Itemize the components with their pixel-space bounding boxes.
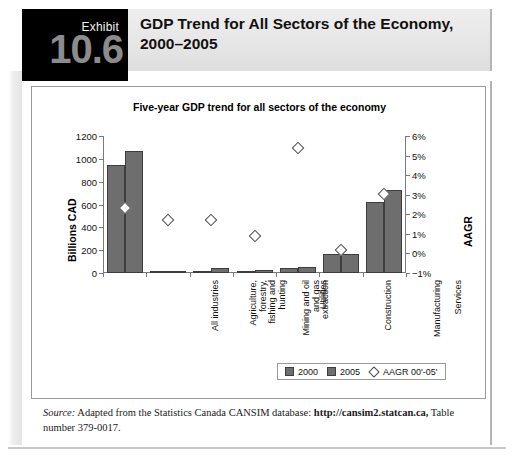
x-axis-tick (276, 273, 277, 277)
y-axis-tick-label: 1000 (76, 153, 97, 164)
y-axis-tick-label: 0 (92, 268, 97, 279)
aagr-marker (205, 214, 218, 227)
aagr-marker (162, 214, 175, 227)
x-axis-tick (406, 273, 407, 277)
bar-2000 (323, 254, 341, 273)
bar-2000 (237, 271, 255, 273)
legend-item: 2005 (327, 367, 360, 377)
bar-2000 (107, 165, 125, 273)
bar-2000 (193, 271, 211, 273)
x-axis-tick (103, 273, 104, 277)
bar-2000 (366, 202, 384, 273)
y-axis-tick (99, 205, 103, 206)
bar-2000 (280, 268, 298, 273)
legend-label: AAGR 00'-05' (383, 367, 437, 377)
y-axis-tick-label: 200 (81, 245, 97, 256)
x-axis-category-label: Services (454, 280, 464, 315)
legend-item: AAGR 00'-05' (369, 367, 437, 377)
bar-2005 (211, 268, 229, 273)
y2-axis-tick-label: 0% (412, 248, 426, 259)
y2-axis-tick-label: 4% (412, 170, 426, 181)
chart-legend: 20002005AAGR 00'-05' (277, 363, 446, 380)
source-text-before: Adapted from the Statistics Canada CANSI… (75, 407, 314, 418)
y-axis-tick-label: 800 (81, 176, 97, 187)
y-axis-line (103, 136, 104, 273)
chart-title: Five-year GDP trend for all sectors of t… (32, 101, 487, 113)
y2-axis-tick (406, 175, 410, 176)
y-axis-tick-label: 600 (81, 199, 97, 210)
y2-axis-tick-label: 3% (412, 189, 426, 200)
y-axis-title: Billions CAD (66, 198, 78, 262)
aagr-marker (248, 229, 261, 242)
y-axis-tick-label: 1200 (76, 131, 97, 142)
bar-2005 (341, 254, 359, 273)
legend-diamond-icon (368, 366, 379, 377)
legend-square-icon (285, 367, 294, 376)
page-title: GDP Trend for All Sectors of the Economy… (140, 14, 480, 55)
y2-axis-tick-label: −1% (412, 268, 431, 279)
y2-axis-tick (406, 136, 410, 137)
exhibit-page: Exhibit 10.6 GDP Trend for All Sectors o… (0, 0, 513, 459)
x-axis-tick (190, 273, 191, 277)
x-axis-tick (319, 273, 320, 277)
bar-2005 (384, 190, 402, 273)
legend-square-icon (327, 367, 336, 376)
exhibit-number: 10.6 (49, 29, 123, 69)
y2-axis-title: AAGR (462, 216, 474, 247)
x-axis-tick (146, 273, 147, 277)
bar-2005 (168, 271, 186, 273)
y-axis-tick (99, 227, 103, 228)
y2-axis-tick-label: 1% (412, 228, 426, 239)
source-label: Source: (43, 407, 75, 418)
x-axis-category-label: Manufacturing (433, 280, 443, 337)
y-axis-tick (99, 250, 103, 251)
y-axis-tick (99, 159, 103, 160)
x-axis-tick (233, 273, 234, 277)
y2-axis-tick (406, 214, 410, 215)
x-axis-tick (363, 273, 364, 277)
y2-axis-tick (406, 253, 410, 254)
y-axis-tick (99, 136, 103, 137)
plot-area: 020040060080010001200−1%0%1%2%3%4%5%6% (103, 136, 406, 273)
x-axis-category-label: Utilities (319, 280, 329, 309)
chart-panel: Five-year GDP trend for all sectors of t… (31, 86, 486, 399)
y-axis-tick (99, 182, 103, 183)
y-axis-tick-label: 400 (81, 222, 97, 233)
page-bottom-rule (8, 447, 506, 449)
source-note: Source: Adapted from the Statistics Cana… (43, 406, 473, 436)
card-left-edge-shadow (8, 71, 22, 445)
y2-axis-tick (406, 234, 410, 235)
y2-axis-tick (406, 156, 410, 157)
y2-axis-tick-label: 2% (412, 209, 426, 220)
bar-2000 (150, 271, 168, 273)
x-axis-category-label: All industries (211, 280, 221, 331)
y2-axis-tick-label: 5% (412, 150, 426, 161)
bar-2005 (298, 267, 316, 273)
aagr-marker (291, 141, 304, 154)
legend-item: 2000 (285, 367, 318, 377)
y2-axis-tick-label: 6% (412, 131, 426, 142)
legend-label: 2005 (340, 367, 360, 377)
bar-2005 (125, 151, 143, 273)
bar-2005 (255, 270, 273, 273)
x-axis-category-label: Construction (383, 280, 393, 331)
legend-label: 2000 (298, 367, 318, 377)
exhibit-number-block: Exhibit 10.6 (22, 9, 128, 81)
y2-axis-tick (406, 195, 410, 196)
x-axis-category-label: Agriculture, forestry, fishing and hunti… (248, 280, 287, 326)
source-url[interactable]: http://cansim2.statcan.ca, (314, 407, 429, 418)
